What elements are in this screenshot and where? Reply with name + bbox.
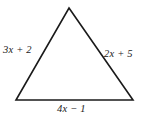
- base-side-label: 4x − 1: [57, 104, 86, 115]
- triangle-figure: 3x + 2 2x + 5 4x − 1: [0, 0, 145, 119]
- right-side-label: 2x + 5: [104, 49, 133, 60]
- triangle-shape: [0, 0, 145, 119]
- left-side-label: 3x + 2: [3, 45, 32, 56]
